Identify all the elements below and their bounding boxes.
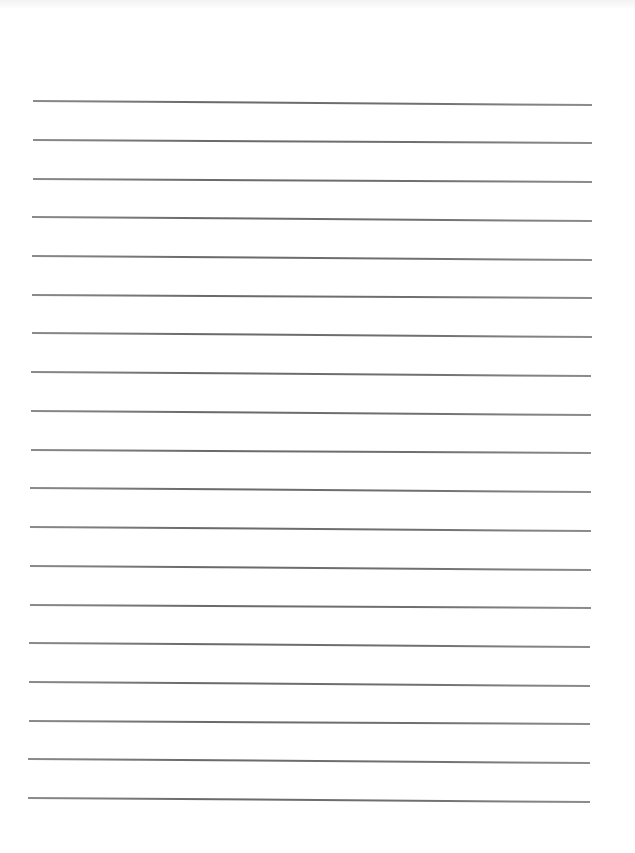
ruled-line <box>32 216 592 222</box>
ruled-line <box>29 642 590 648</box>
ruled-line <box>30 487 591 493</box>
ruled-line <box>29 720 590 725</box>
ruled-line <box>33 100 592 106</box>
lined-paper-sheet <box>0 0 635 853</box>
ruled-line <box>32 294 592 299</box>
ruled-line <box>31 410 591 416</box>
ruled-line <box>33 139 592 144</box>
ruled-line <box>28 797 590 803</box>
ruled-line <box>30 604 591 609</box>
ruled-line <box>32 255 592 261</box>
ruled-line <box>33 178 592 183</box>
ruled-line <box>32 332 592 338</box>
ruled-line <box>31 449 591 454</box>
ruled-line <box>30 565 591 571</box>
ruled-line <box>29 681 590 687</box>
ruled-line <box>31 371 591 377</box>
ruled-line <box>30 526 591 532</box>
ruled-line <box>28 758 590 764</box>
